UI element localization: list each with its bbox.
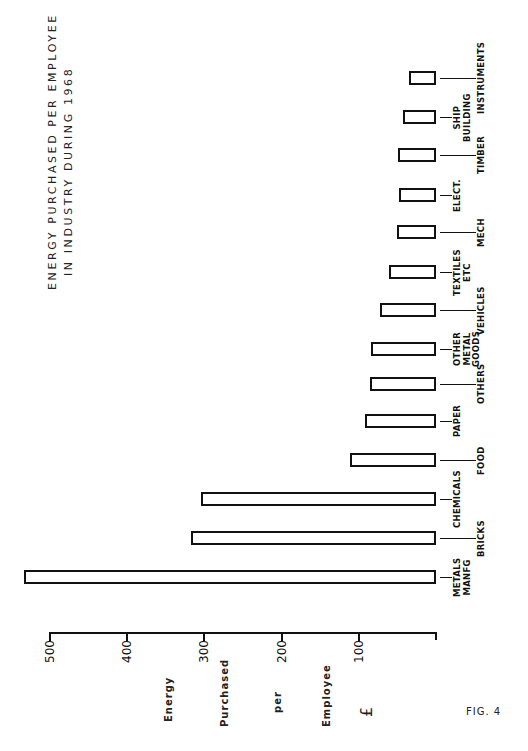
leader-line bbox=[440, 272, 452, 274]
chart-subtitle: IN INDUSTRY DURING 1968 bbox=[62, 67, 75, 276]
bar bbox=[191, 531, 436, 545]
bar bbox=[389, 265, 436, 279]
bar bbox=[24, 570, 436, 584]
leader-line bbox=[440, 460, 476, 462]
category-label: METALSMANFG bbox=[453, 557, 472, 596]
category-label: OTHERMETALGOODS bbox=[453, 331, 482, 367]
category-label: CHEMICALS bbox=[453, 470, 463, 528]
bar bbox=[397, 225, 436, 239]
bar bbox=[403, 110, 436, 124]
bar bbox=[380, 303, 436, 317]
leader-line bbox=[440, 155, 476, 157]
bar bbox=[371, 342, 436, 356]
chart-title: ENERGY PURCHASED PER EMPLOYEE bbox=[46, 13, 59, 290]
leader-line bbox=[440, 577, 452, 579]
category-label: VEHICLES bbox=[477, 286, 487, 335]
category-label: OTHERS bbox=[477, 364, 487, 404]
tick-label: 100 bbox=[352, 640, 366, 663]
bar bbox=[350, 453, 436, 467]
category-label: PAPER bbox=[453, 405, 463, 437]
bar bbox=[365, 414, 436, 428]
tick-label: 500 bbox=[43, 640, 57, 663]
leader-line bbox=[440, 78, 476, 80]
value-axis-line bbox=[49, 632, 437, 634]
bar bbox=[201, 492, 436, 506]
currency-unit-label: £ bbox=[357, 707, 376, 717]
category-label: FOOD bbox=[477, 446, 487, 475]
leader-line bbox=[440, 195, 452, 197]
leader-line bbox=[440, 232, 476, 234]
tick-label: 200 bbox=[275, 640, 289, 663]
leader-line bbox=[440, 384, 476, 386]
category-label: MECH bbox=[477, 218, 487, 247]
category-label: BRICKS bbox=[477, 520, 487, 557]
category-label: TIMBER bbox=[477, 136, 487, 174]
category-label: ELECT. bbox=[453, 179, 463, 212]
bar bbox=[398, 148, 436, 162]
figure-label: FIG. 4 bbox=[466, 706, 501, 717]
leader-line bbox=[440, 538, 476, 540]
leader-line bbox=[440, 421, 452, 423]
axis-title-word: per bbox=[272, 691, 283, 713]
category-label: INSTRUMENTS bbox=[477, 42, 487, 114]
bar-chart: ENERGY PURCHASED PER EMPLOYEE IN INDUSTR… bbox=[0, 0, 528, 751]
tick-label: 300 bbox=[197, 640, 211, 663]
bar bbox=[370, 377, 436, 391]
value-axis-end-tick bbox=[435, 632, 437, 640]
axis-title-word: Employee bbox=[321, 664, 332, 727]
tick-label: 400 bbox=[120, 640, 134, 663]
category-label: TEXTILESETC bbox=[453, 249, 472, 296]
leader-line bbox=[440, 349, 452, 351]
category-label: SHIPBUILDING bbox=[453, 93, 472, 142]
axis-title-word: Energy bbox=[163, 677, 174, 722]
leader-line bbox=[440, 117, 452, 119]
leader-line bbox=[440, 499, 452, 501]
leader-line bbox=[440, 310, 476, 312]
axis-title-word: Purchased bbox=[219, 659, 230, 727]
bar bbox=[399, 188, 436, 202]
bar bbox=[409, 71, 436, 85]
